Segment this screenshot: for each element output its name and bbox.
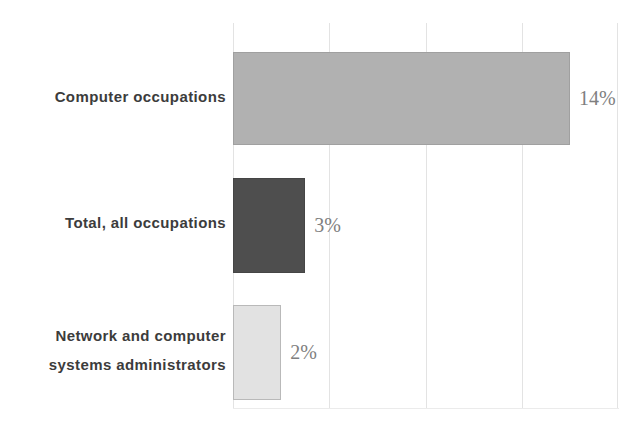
value-label-network-systems-administrators: 2%: [290, 341, 317, 364]
category-label-line: systems administrators: [0, 356, 226, 373]
plot-area: 14% 3% 2%: [233, 23, 618, 409]
bar-total-all-occupations: [233, 178, 305, 273]
category-label-network-systems-administrators: Network and computer systems administrat…: [0, 327, 226, 385]
value-label-computer-occupations: 14%: [579, 87, 616, 110]
category-label-line: Computer occupations: [0, 88, 226, 105]
bar-computer-occupations: [233, 52, 570, 145]
category-label-computer-occupations: Computer occupations: [0, 88, 226, 105]
category-label-total-all-occupations: Total, all occupations: [0, 214, 226, 231]
x-axis-line: [233, 408, 619, 409]
category-label-line: Total, all occupations: [0, 214, 226, 231]
bar-network-systems-administrators: [233, 305, 281, 400]
bar-chart: Computer occupations Total, all occupati…: [0, 0, 633, 422]
gridline: [617, 23, 618, 409]
category-label-line: Network and computer: [0, 327, 226, 344]
value-label-total-all-occupations: 3%: [314, 214, 341, 237]
